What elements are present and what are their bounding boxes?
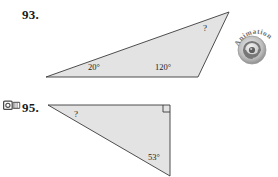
textbook-page: 93. 20° 120° ? A (0, 0, 278, 177)
triangle-95-shape (48, 105, 170, 176)
figure-triangle-95 (0, 0, 278, 177)
angle-label-unknown-95: ? (74, 110, 78, 119)
angle-label-53: 53° (148, 153, 160, 162)
